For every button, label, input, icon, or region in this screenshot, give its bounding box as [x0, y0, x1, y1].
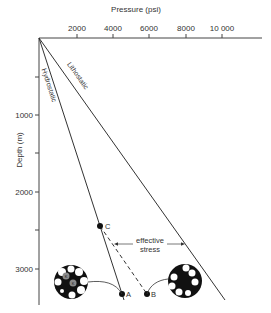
k-grain-1-label: K — [65, 274, 68, 279]
effective-stress-label-line1: effective — [136, 236, 164, 245]
point-c-label: C — [105, 222, 111, 231]
x-axis-ticks — [77, 34, 222, 38]
x-tick-label-2000: 2000 — [68, 24, 86, 33]
k-grain-2-label: K — [72, 281, 75, 286]
y-axis-title: Depth (m) — [15, 132, 24, 168]
effective-stress-label-line2: stress — [140, 245, 160, 254]
lithostatic-line — [39, 38, 225, 300]
right-grain-inset-icon — [168, 264, 202, 298]
x-tick-label-10000: 10 000 — [210, 24, 235, 33]
point-a-label: A — [126, 290, 131, 299]
connector-a-to-left-grains — [88, 281, 122, 294]
x-tick-label-4000: 4000 — [104, 24, 122, 33]
pressure-depth-diagram: Pressure (psi) 2000 4000 6000 8000 10 00… — [0, 0, 271, 313]
y-tick-label-3000: 3000 — [15, 265, 33, 274]
hydrostatic-label: Hydrostatic — [40, 67, 59, 103]
effective-stress-annotation: effective stress — [114, 236, 185, 254]
point-c-marker — [97, 223, 103, 229]
y-tick-label-1000: 1000 — [15, 111, 33, 120]
y-axis-ticks — [35, 77, 39, 269]
point-b-label: B — [151, 290, 156, 299]
x-axis-title: Pressure (psi) — [111, 5, 161, 14]
y-tick-label-2000: 2000 — [15, 188, 33, 197]
x-tick-label-6000: 6000 — [140, 24, 158, 33]
left-grain-inset-icon: K K — [54, 265, 88, 299]
lithostatic-label: Lithostatic — [66, 61, 90, 91]
x-tick-label-8000: 8000 — [177, 24, 195, 33]
arrowhead-left-icon — [114, 242, 118, 245]
